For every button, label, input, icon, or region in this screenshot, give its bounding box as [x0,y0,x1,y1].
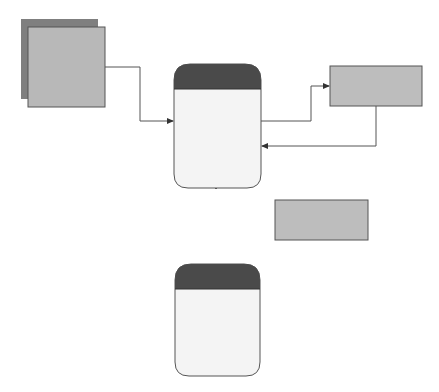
courses-store-shape[interactable] [330,66,422,106]
flow-application [105,67,173,121]
process-2-shape[interactable] [175,264,260,376]
external-entity-shape[interactable] [21,19,105,107]
flow-inquiry-courses [261,86,329,121]
applications-store-shape[interactable] [275,200,368,240]
process-1-shape[interactable] [174,64,261,188]
diagram-canvas [0,0,439,392]
flow-reply-courses [262,106,376,146]
